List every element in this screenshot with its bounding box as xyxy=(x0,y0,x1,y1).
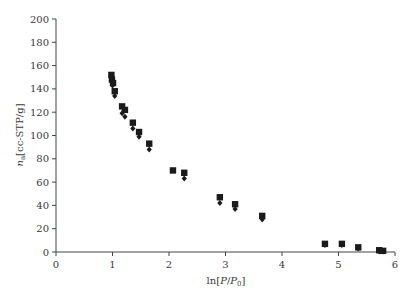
diamond-marker xyxy=(147,146,152,152)
y-tick-label: 140 xyxy=(30,83,49,94)
y-tick-label: 200 xyxy=(30,14,49,25)
diamond-marker xyxy=(130,126,135,132)
x-tick-label: 6 xyxy=(392,259,398,270)
square-marker xyxy=(181,170,187,176)
square-marker xyxy=(130,119,136,125)
square-marker xyxy=(217,194,223,200)
y-tick-label: 160 xyxy=(30,60,49,71)
x-tick-label: 4 xyxy=(279,259,285,270)
y-tick-label: 100 xyxy=(30,130,49,141)
y-tick-label: 120 xyxy=(30,107,49,118)
y-axis-title: na[cc-STP/g] xyxy=(14,103,27,166)
y-tick-label: 180 xyxy=(30,37,49,48)
diamond-marker xyxy=(182,176,187,182)
square-marker xyxy=(170,167,176,173)
x-axis-title: ln[P/P0] xyxy=(207,275,246,288)
y-tick-label: 40 xyxy=(36,200,49,211)
y-tick-label: 0 xyxy=(43,247,49,258)
axes: 0204060801001201401601802000123456 xyxy=(30,14,398,271)
x-tick-label: 3 xyxy=(222,259,228,270)
y-tick-label: 20 xyxy=(36,223,49,234)
x-tick-label: 0 xyxy=(53,259,59,270)
x-tick-label: 2 xyxy=(166,259,172,270)
scatter-chart: 0204060801001201401601802000123456 ln[P/… xyxy=(0,0,408,296)
data-points xyxy=(108,72,386,255)
y-tick-label: 80 xyxy=(36,153,49,164)
diamond-marker xyxy=(217,200,222,206)
x-tick-label: 1 xyxy=(109,259,115,270)
x-tick-label: 5 xyxy=(335,259,341,270)
y-tick-label: 60 xyxy=(36,177,49,188)
square-marker xyxy=(146,140,152,146)
